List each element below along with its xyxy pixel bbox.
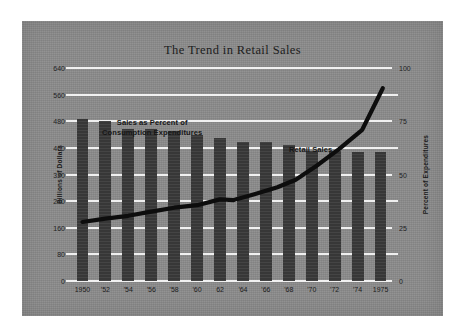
x-axis-tick-label: '74 [353, 286, 362, 293]
y-axis-right-tick-label: 25 [399, 224, 407, 231]
chart-title: The Trend in Retail Sales [22, 43, 443, 58]
x-axis-tick-label: '60 [193, 286, 202, 293]
x-axis-tick-label: '56 [147, 286, 156, 293]
x-axis-tick-label: '72 [330, 286, 339, 293]
y-axis-left-tick-label: 560 [53, 91, 65, 98]
y-axis-right-tick-label: 100 [399, 65, 411, 72]
annotation-percent-line2: Consumption Expenditures [102, 128, 202, 138]
y-axis-left-tick-label: 160 [53, 224, 65, 231]
x-axis-tick-label: '70 [307, 286, 316, 293]
x-axis-tick-label: '66 [261, 286, 270, 293]
annotation-percent-label: Sales as Percent of Consumption Expendit… [102, 118, 202, 138]
chart-panel: The Trend in Retail Sales Billions of Do… [22, 21, 443, 316]
y-axis-right-label: Percent of Expenditures [420, 68, 432, 281]
x-axis-tick-label: '58 [170, 286, 179, 293]
y-axis-right-tick-label: 0 [399, 278, 403, 285]
annotation-retail-sales-label: Retail Sales [289, 145, 332, 155]
y-axis-left-tick-label: 640 [53, 65, 65, 72]
y-axis-left-tick-label: 320 [53, 171, 65, 178]
y-axis-left-tick-label: 480 [53, 118, 65, 125]
x-axis-tick-label: '54 [124, 286, 133, 293]
line-series [71, 68, 392, 281]
trend-line-path [83, 88, 383, 222]
y-axis-right-minor-tick [392, 253, 398, 255]
plot-area: 080160240320400480560640 0255075100 1950… [71, 68, 392, 281]
y-axis-left-tick-label: 80 [57, 251, 65, 258]
chart-figure: The Trend in Retail Sales Billions of Do… [0, 0, 465, 336]
y-axis-right-label-text: Percent of Expenditures [423, 135, 430, 214]
x-axis-tick-label: 1975 [373, 286, 389, 293]
y-axis-left-tick-label: 0 [61, 278, 65, 285]
y-axis-right-tick-label: 50 [399, 171, 407, 178]
x-axis-tick-label: '64 [238, 286, 247, 293]
x-axis-tick-label: '68 [284, 286, 293, 293]
x-axis-tick-label: 62 [216, 286, 224, 293]
y-axis-right-tick-label: 75 [399, 118, 407, 125]
y-axis-left-tick-label: 240 [53, 198, 65, 205]
annotation-percent-line1: Sales as Percent of [102, 118, 202, 128]
y-axis-right-minor-tick [392, 200, 398, 202]
y-axis-left-tick-label: 400 [53, 144, 65, 151]
y-axis-right-minor-tick [392, 94, 398, 96]
y-axis-right-minor-tick [392, 147, 398, 149]
x-axis-tick-label: '52 [101, 286, 110, 293]
x-axis-tick-label: 1950 [75, 286, 91, 293]
